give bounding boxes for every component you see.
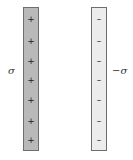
minus-sign: –	[92, 117, 106, 126]
minus-sign: –	[92, 37, 106, 46]
plus-sign: +	[24, 76, 38, 85]
plus-sign: +	[24, 57, 38, 66]
negative-charge-density-label: −σ	[112, 66, 127, 76]
plus-sign: +	[24, 96, 38, 105]
positive-charge-density-label: σ	[8, 66, 15, 76]
plus-sign: +	[24, 117, 38, 126]
minus-sign: –	[92, 76, 106, 85]
plus-sign: +	[24, 37, 38, 46]
plus-sign: +	[24, 136, 38, 145]
positive-plate: + + + + + + +	[23, 7, 39, 151]
minus-sign: –	[92, 15, 106, 24]
minus-sign: –	[92, 136, 106, 145]
minus-sign: –	[92, 57, 106, 66]
negative-plate: – – – – – – –	[91, 7, 107, 151]
minus-sign: –	[92, 96, 106, 105]
plus-sign: +	[24, 15, 38, 24]
